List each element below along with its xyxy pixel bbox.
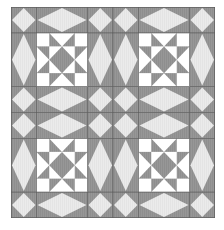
star-corner-square — [177, 73, 190, 86]
corner-diamond — [113, 192, 139, 218]
star-corner-square — [139, 33, 152, 46]
edge-diamond-vertical — [88, 139, 114, 193]
edge-diamond-horizontal — [139, 7, 190, 33]
corner-diamond — [88, 192, 114, 218]
star-corner-square — [75, 139, 88, 152]
star-corner-square — [177, 139, 190, 152]
edge-diamond-horizontal — [37, 113, 88, 139]
edge-diamond-vertical — [11, 139, 37, 193]
star-corner-square — [75, 179, 88, 192]
quilt-block — [11, 7, 113, 113]
quilt-pattern — [11, 7, 215, 218]
star-corner-square — [37, 33, 50, 46]
edge-diamond-vertical — [190, 139, 216, 193]
star-corner-square — [177, 33, 190, 46]
star-corner-square — [75, 33, 88, 46]
corner-diamond — [11, 7, 37, 33]
corner-diamond — [11, 192, 37, 218]
corner-diamond — [113, 113, 139, 139]
edge-diamond-horizontal — [139, 192, 190, 218]
star-corner-square — [37, 73, 50, 86]
corner-diamond — [190, 87, 216, 113]
center-star — [37, 33, 88, 87]
star-corner-square — [139, 139, 152, 152]
quilt-svg — [11, 7, 215, 218]
corner-diamond — [88, 87, 114, 113]
star-corner-square — [139, 73, 152, 86]
edge-diamond-horizontal — [139, 113, 190, 139]
star-corner-square — [177, 179, 190, 192]
corner-diamond — [190, 192, 216, 218]
edge-diamond-vertical — [190, 33, 216, 87]
center-star — [139, 33, 190, 87]
center-star — [37, 139, 88, 193]
corner-diamond — [190, 7, 216, 33]
edge-diamond-horizontal — [37, 87, 88, 113]
quilt-block — [113, 113, 215, 219]
edge-diamond-vertical — [88, 33, 114, 87]
corner-diamond — [11, 113, 37, 139]
corner-diamond — [88, 7, 114, 33]
corner-diamond — [113, 87, 139, 113]
edge-diamond-vertical — [11, 33, 37, 87]
star-corner-square — [37, 139, 50, 152]
quilt-block — [113, 7, 215, 113]
edge-diamond-horizontal — [37, 192, 88, 218]
corner-diamond — [190, 113, 216, 139]
corner-diamond — [88, 113, 114, 139]
center-star — [139, 139, 190, 193]
star-corner-square — [75, 73, 88, 86]
edge-diamond-horizontal — [139, 87, 190, 113]
star-corner-square — [139, 179, 152, 192]
quilt-block — [11, 113, 113, 219]
corner-diamond — [11, 87, 37, 113]
corner-diamond — [113, 7, 139, 33]
star-corner-square — [37, 179, 50, 192]
edge-diamond-vertical — [113, 139, 139, 193]
edge-diamond-vertical — [113, 33, 139, 87]
edge-diamond-horizontal — [37, 7, 88, 33]
